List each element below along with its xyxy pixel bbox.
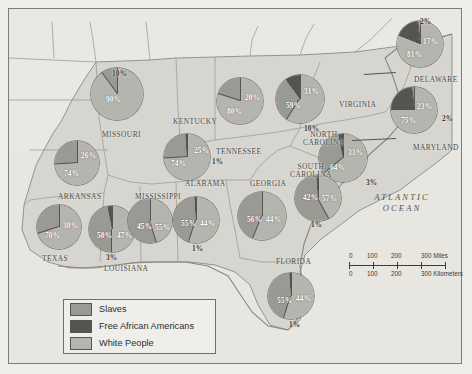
scale-tick-label: 100 xyxy=(367,270,378,277)
pie-value-label: 1% xyxy=(192,244,203,253)
state-label-maryland: MARYLAND xyxy=(413,144,459,152)
legend-item: Slaves xyxy=(70,301,215,317)
state-label-south-carolina: SOUTHCAROLINA xyxy=(290,163,332,180)
pie-value-label: 20% xyxy=(245,93,260,102)
pie-value-label: 90% xyxy=(106,95,121,104)
legend-item: Free African Americans xyxy=(70,318,215,334)
state-label-florida: FLORIDA xyxy=(276,258,311,266)
pie-value-label: 70% xyxy=(45,231,60,240)
legend-label: Slaves xyxy=(99,304,127,314)
pie-value-label: 1% xyxy=(311,220,322,229)
scale-tick-label: 0 xyxy=(349,270,353,277)
pie-slice-divider xyxy=(150,199,151,221)
pie-value-label: 55% xyxy=(181,219,196,228)
pie-value-label: 1% xyxy=(212,157,223,166)
pie-slice-divider xyxy=(391,109,414,110)
pie-value-label: 31% xyxy=(304,87,319,96)
pie-value-label: 2% xyxy=(420,17,431,26)
scale-tick-label: 100 xyxy=(367,252,378,259)
scale-kilometers-labels: 0100200300 Kilometers xyxy=(349,270,465,279)
pie-value-label: 57% xyxy=(322,194,337,203)
state-label-texas: TEXAS xyxy=(42,255,68,263)
pie-value-label: 55% xyxy=(277,296,292,305)
state-label-missouri: MISSOURI xyxy=(102,131,141,139)
legend: SlavesFree African AmericansWhite People xyxy=(63,299,216,354)
pie-value-label: 47% xyxy=(117,231,132,240)
scale-tick-label: 200 xyxy=(391,252,402,259)
pie-value-label: 64% xyxy=(330,163,345,172)
pie-value-label: 44% xyxy=(296,294,311,303)
pie-value-label: 42% xyxy=(303,193,318,202)
pie-value-label: 44% xyxy=(266,215,281,224)
pie-value-label: 25% xyxy=(194,146,209,155)
legend-swatch xyxy=(70,303,92,316)
legend-swatch xyxy=(70,320,92,333)
pie-value-label: 17% xyxy=(423,37,438,46)
state-label-georgia: GEORGIA xyxy=(250,180,286,188)
scale-bar-graphic xyxy=(349,262,465,269)
scale-tick-label: 200 xyxy=(391,270,402,277)
pie-value-label: 45% xyxy=(137,222,152,231)
legend-label: White People xyxy=(99,338,154,348)
pie-value-label: 26% xyxy=(81,151,96,160)
state-label-delaware: DELAWARE xyxy=(414,76,458,84)
pie-value-label: 74% xyxy=(171,159,186,168)
state-label-alabama: ALABAMA xyxy=(185,180,226,188)
scale-tick-label: 300 Miles xyxy=(421,252,448,259)
pie-slice-divider xyxy=(262,192,263,216)
pie-value-label: 1% xyxy=(289,320,300,329)
pie-value-label: 3% xyxy=(366,178,377,187)
pie-value-label: 23% xyxy=(417,102,432,111)
pie-value-label: 56% xyxy=(247,215,262,224)
pie-value-label: 10% xyxy=(112,69,127,78)
state-label-arkansas: ARKANSAS xyxy=(58,193,101,201)
state-label-virginia: VIRGINIA xyxy=(339,101,376,109)
pie-value-label: 33% xyxy=(348,148,363,157)
pie-value-label: 3% xyxy=(106,253,117,262)
slave-population-map: ATLANTIC OCEAN 90%10%MISSOURI74%26%ARKAN… xyxy=(0,0,472,374)
state-label-mississippi: MISSISSIPPI xyxy=(135,193,181,201)
pie-value-label: 75% xyxy=(401,116,416,125)
ocean-label: ATLANTIC OCEAN xyxy=(352,192,452,214)
pie-slice-divider xyxy=(59,205,60,227)
state-label-north-carolina: NORTHCAROLINA xyxy=(303,131,345,148)
pie-value-label: 74% xyxy=(64,169,79,178)
state-label-louisiana: LOUISIANA xyxy=(104,265,148,273)
pie-slice-divider xyxy=(300,75,301,99)
pie-value-label: 2% xyxy=(442,114,453,123)
pie-value-label: 30% xyxy=(63,221,78,230)
pie-value-label: 50% xyxy=(97,231,112,240)
legend-item: White People xyxy=(70,335,215,351)
scale-miles-labels: 0100200300 Miles xyxy=(349,252,465,261)
pie-value-label: 55% xyxy=(155,223,170,232)
pie-value-label: 80% xyxy=(227,107,242,116)
pie-slice-divider xyxy=(240,78,241,101)
state-label-tennessee: TENNESSEE xyxy=(216,148,262,156)
pie-slice-divider xyxy=(77,141,78,163)
state-label-kentucky: KENTUCKY xyxy=(173,118,217,126)
scale-tick-label: 300 Kilometers xyxy=(421,270,463,277)
pie-value-label: 44% xyxy=(200,219,215,228)
pie-value-label: 59% xyxy=(286,101,301,110)
pie-value-label: 81% xyxy=(407,50,422,59)
scale-bar: 0100200300 Miles 0100200300 Kilometers xyxy=(349,252,465,279)
scale-tick-label: 0 xyxy=(349,252,353,259)
legend-swatch xyxy=(70,337,92,350)
legend-label: Free African Americans xyxy=(99,321,194,331)
